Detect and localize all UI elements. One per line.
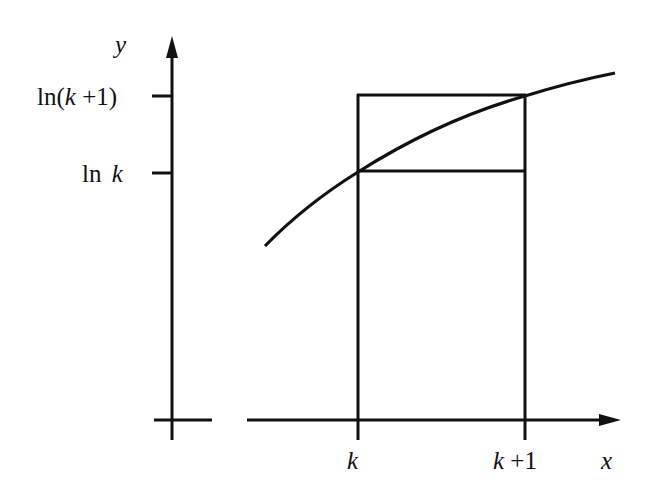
y-axis-label: y (115, 32, 126, 57)
label-suffix: +1) (76, 83, 117, 110)
y-axis-arrowhead (166, 36, 178, 58)
x-tick-label-k-plus-1: k +1 (493, 448, 537, 473)
label-prefix: ln( (37, 83, 65, 110)
label-var: k (112, 160, 123, 187)
x-axis-arrowhead (599, 414, 621, 426)
diagram-canvas (0, 0, 652, 488)
y-tick-label-ln-k-plus-1: ln(k +1) (37, 84, 117, 109)
label-prefix: ln (82, 160, 112, 187)
label-var: k (493, 447, 504, 474)
label-suffix: +1 (504, 447, 537, 474)
x-axis-label: x (601, 448, 612, 473)
ln-curve (265, 73, 615, 246)
y-tick-label-ln-k: ln k (82, 161, 123, 186)
label-var: k (65, 83, 76, 110)
x-tick-label-k: k (347, 448, 358, 473)
